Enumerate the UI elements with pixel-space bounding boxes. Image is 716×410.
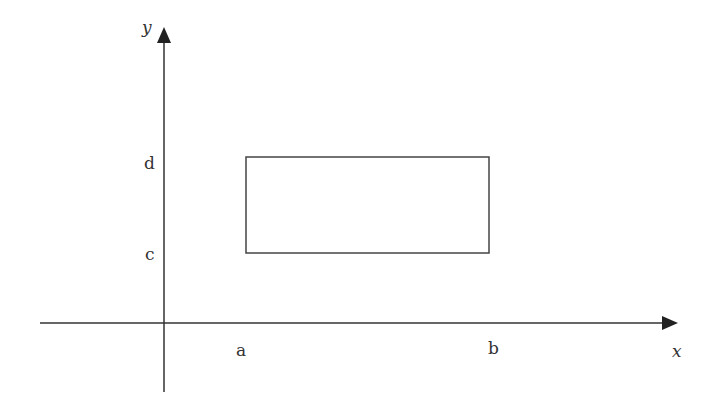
x-axis-label: x (672, 341, 682, 361)
tick-label-c: c (145, 244, 155, 264)
coordinate-diagram: y x d c a b (0, 0, 716, 410)
y-axis-label: y (141, 17, 152, 37)
tick-label-d: d (144, 153, 155, 173)
x-axis-arrowhead-icon (662, 316, 678, 330)
region-rectangle (246, 157, 489, 253)
y-axis-arrowhead-icon (157, 27, 171, 43)
tick-label-b: b (488, 338, 499, 358)
tick-label-a: a (236, 340, 246, 360)
